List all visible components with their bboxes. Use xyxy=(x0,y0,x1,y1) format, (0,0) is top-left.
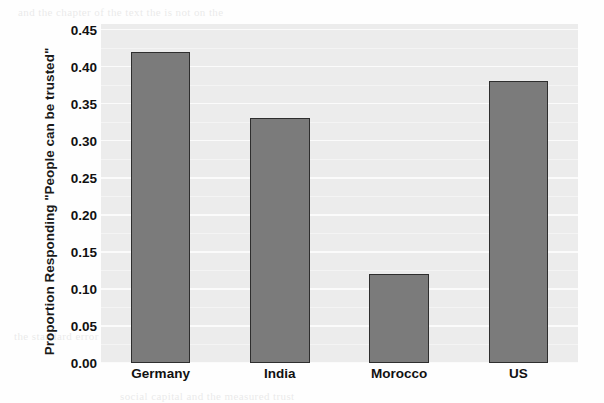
gridline xyxy=(101,29,578,31)
y-tick-label: 0.35 xyxy=(55,96,97,111)
x-tick-label: India xyxy=(264,366,296,381)
gridline-minor xyxy=(101,48,578,49)
figure-canvas: and the chapter of the text the is not o… xyxy=(0,0,604,403)
bar-india xyxy=(250,118,310,363)
x-tick-label: Germany xyxy=(131,366,190,381)
bar-chart: Proportion Responding "People can be tru… xyxy=(0,0,604,403)
y-tick-label: 0.15 xyxy=(55,244,97,259)
x-axis-tick-labels: GermanyIndiaMoroccoUS xyxy=(101,366,578,390)
y-tick-label: 0.30 xyxy=(55,133,97,148)
y-tick-label: 0.25 xyxy=(55,170,97,185)
y-tick-label: 0.45 xyxy=(55,22,97,37)
y-axis-tick-labels: 0.000.050.100.150.200.250.300.350.400.45 xyxy=(55,24,97,363)
y-tick-label: 0.05 xyxy=(55,318,97,333)
y-tick-label: 0.00 xyxy=(55,356,97,371)
x-tick-label: Morocco xyxy=(371,366,427,381)
x-tick-label: US xyxy=(509,366,528,381)
bar-us xyxy=(489,81,549,363)
y-tick-label: 0.40 xyxy=(55,59,97,74)
y-tick-label: 0.10 xyxy=(55,281,97,296)
bar-germany xyxy=(131,52,191,363)
plot-area xyxy=(101,24,578,363)
bar-morocco xyxy=(369,274,429,363)
y-tick-label: 0.20 xyxy=(55,207,97,222)
